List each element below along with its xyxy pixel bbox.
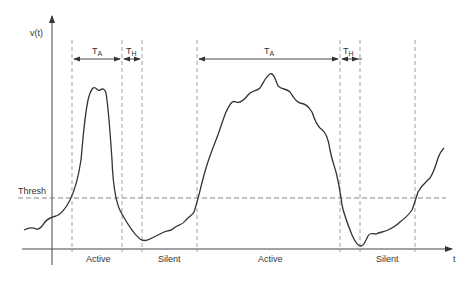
region-label-active-2: Active [258, 254, 283, 264]
interval-label-th-1: TH [126, 46, 137, 57]
y-axis-label: v(t) [30, 28, 43, 38]
signal-curve [24, 74, 444, 246]
x-axis-label: t [453, 254, 456, 264]
vad-diagram: v(t) t Thresh TA TH TA TH Active Silent … [0, 0, 474, 293]
interval-label-ta-1: TA [92, 46, 103, 57]
region-label-silent-2: Silent [376, 254, 399, 264]
threshold-label: Thresh [18, 186, 46, 196]
interval-label-th-2: TH [343, 46, 354, 57]
region-label-active-1: Active [86, 254, 111, 264]
interval-label-ta-2: TA [264, 46, 275, 57]
region-label-silent-1: Silent [158, 254, 181, 264]
boundary-lines [72, 40, 415, 252]
